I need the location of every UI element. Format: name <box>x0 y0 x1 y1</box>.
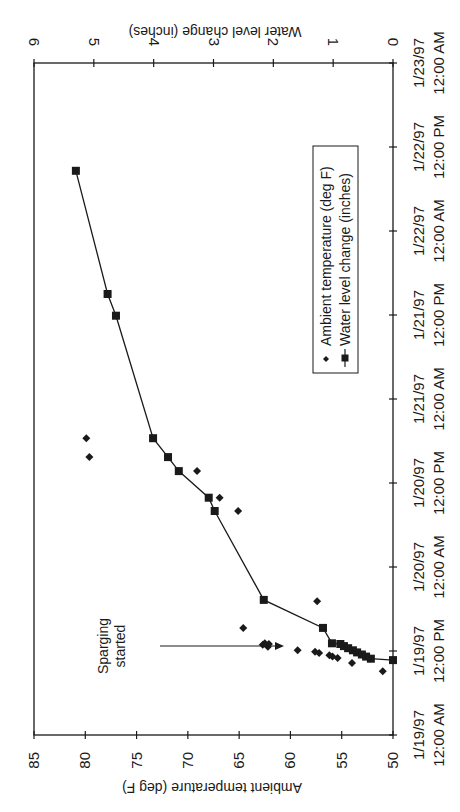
svg-text:started: started <box>112 625 128 668</box>
svg-text:1/20/97: 1/20/97 <box>410 542 427 592</box>
water-level-tick-label: 6 <box>26 38 43 46</box>
svg-text:12:00 AM: 12:00 AM <box>430 199 447 262</box>
svg-text:1/21/97: 1/21/97 <box>410 290 427 340</box>
svg-text:Ambient temperature (deg F): Ambient temperature (deg F) <box>318 166 334 346</box>
water-level-point <box>319 624 327 632</box>
svg-text:12:00 AM: 12:00 AM <box>430 535 447 598</box>
svg-text:12:00 AM: 12:00 AM <box>430 31 447 94</box>
temperature-tick-label: 60 <box>281 752 298 769</box>
water-level-point <box>205 494 213 502</box>
svg-text:1/23/97: 1/23/97 <box>410 38 427 88</box>
water-level-point <box>211 507 219 515</box>
temperature-tick-label: 80 <box>76 752 93 769</box>
temperature-point <box>379 667 387 675</box>
water-level-point <box>164 453 172 461</box>
svg-text:Water level change (inches): Water level change (inches) <box>337 173 353 346</box>
svg-text:55: 55 <box>333 752 350 769</box>
temperature-point <box>82 434 90 442</box>
svg-text:12:00 AM: 12:00 AM <box>430 703 447 766</box>
water-level-point <box>112 312 120 320</box>
temperature-point <box>85 453 93 461</box>
svg-text:0: 0 <box>385 38 402 46</box>
temperature-point <box>234 507 242 515</box>
water-level-point <box>72 167 80 175</box>
svg-text:1/20/97: 1/20/97 <box>410 458 427 508</box>
temperature-tick-label: 50 <box>384 752 401 769</box>
svg-text:1/22/97: 1/22/97 <box>410 206 427 256</box>
time-tick-label: 1/20/9712:00 AM <box>410 535 447 598</box>
svg-text:80: 80 <box>76 752 93 769</box>
svg-text:70: 70 <box>179 752 196 769</box>
svg-text:1/22/97: 1/22/97 <box>410 122 427 172</box>
water-level-point <box>328 639 336 647</box>
water-level-point <box>175 467 183 475</box>
axis-labels: 1/19/9712:00 AM1/19/9712:00 PM1/20/9712:… <box>25 24 447 796</box>
temperature-point <box>313 597 321 605</box>
svg-text:75: 75 <box>128 752 145 769</box>
temperature-axis-title: Ambient temperature (deg F) <box>122 780 302 796</box>
water-level-tick-label: 0 <box>385 38 402 46</box>
rotated-chart: 1/19/9712:00 AM1/19/9712:00 PM1/20/9712:… <box>0 0 460 812</box>
svg-text:12:00 PM: 12:00 PM <box>430 283 447 347</box>
svg-text:12:00 PM: 12:00 PM <box>430 451 447 515</box>
svg-text:1/19/97: 1/19/97 <box>410 710 427 760</box>
time-tick-label: 1/19/9712:00 AM <box>410 703 447 766</box>
temperature-tick-label: 85 <box>25 752 42 769</box>
time-tick-label: 1/21/9712:00 AM <box>410 367 447 430</box>
time-tick-label: 1/22/9712:00 AM <box>410 199 447 262</box>
svg-text:12:00 PM: 12:00 PM <box>430 619 447 683</box>
svg-text:6: 6 <box>26 38 43 46</box>
sparging-annotation: Spargingstarted <box>95 618 284 674</box>
temperature-point <box>239 624 247 632</box>
svg-text:Sparging: Sparging <box>95 618 111 674</box>
legend-square-icon <box>342 355 349 362</box>
water-level-tick-label: 5 <box>86 38 103 46</box>
time-tick-label: 1/19/9712:00 PM <box>410 619 447 683</box>
time-tick-label: 1/23/9712:00 AM <box>410 31 447 94</box>
water-level-axis-title: Water level change (inches) <box>128 24 301 40</box>
svg-text:1: 1 <box>325 38 342 46</box>
temperature-point <box>193 467 201 475</box>
time-tick-label: 1/21/9712:00 PM <box>410 283 447 347</box>
svg-text:12:00 PM: 12:00 PM <box>430 115 447 179</box>
svg-text:12:00 AM: 12:00 AM <box>430 367 447 430</box>
svg-text:5: 5 <box>86 38 103 46</box>
legend: Ambient temperature (deg F)Water level c… <box>313 146 358 373</box>
svg-text:65: 65 <box>230 752 247 769</box>
temperature-tick-label: 65 <box>230 752 247 769</box>
water-level-point <box>336 640 344 648</box>
water-level-point <box>104 290 112 298</box>
temperature-point <box>294 646 302 654</box>
water-level-point <box>260 596 268 604</box>
temperature-tick-label: 70 <box>179 752 196 769</box>
water-level-point <box>149 434 157 442</box>
svg-text:60: 60 <box>281 752 298 769</box>
svg-text:85: 85 <box>25 752 42 769</box>
temperature-point <box>216 494 224 502</box>
temperature-tick-label: 55 <box>333 752 350 769</box>
time-tick-label: 1/22/9712:00 PM <box>410 115 447 179</box>
temperature-point <box>348 659 356 667</box>
legend-item-water-level: Water level change (inches) <box>337 173 353 346</box>
arrow-head-icon <box>275 642 284 650</box>
svg-text:50: 50 <box>384 752 401 769</box>
legend-item-temperature: Ambient temperature (deg F) <box>318 166 334 346</box>
svg-text:1/19/97: 1/19/97 <box>410 626 427 676</box>
time-tick-label: 1/20/9712:00 PM <box>410 451 447 515</box>
svg-text:1/21/97: 1/21/97 <box>410 374 427 424</box>
water-level-tick-label: 1 <box>325 38 342 46</box>
temperature-tick-label: 75 <box>128 752 145 769</box>
water-level-point <box>389 656 397 664</box>
